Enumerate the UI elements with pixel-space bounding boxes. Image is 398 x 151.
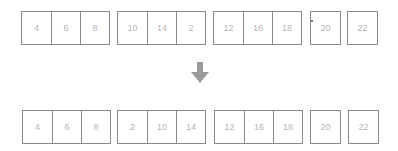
cell: 22 [349,111,378,143]
arrow-down-icon [190,62,210,84]
before-group-5: 22 [347,11,378,45]
cell: 18 [272,12,301,44]
before-group-4: 20 [310,11,341,45]
after-group-2: 2 10 14 [117,110,206,144]
cell: 14 [176,111,205,143]
cell: 18 [273,111,302,143]
cell: 22 [348,12,377,44]
marker-dot [311,20,313,22]
cell: 20 [311,111,340,143]
after-row: 4 6 8 2 10 14 12 16 18 20 22 [0,110,398,144]
cell: 20 [311,12,340,44]
cell: 12 [215,111,244,143]
after-group-5: 22 [348,110,379,144]
before-group-2: 10 14 2 [117,11,206,45]
cell: 14 [147,12,176,44]
cell: 10 [118,12,147,44]
cell: 6 [51,12,80,44]
cell: 6 [52,111,81,143]
cell: 8 [81,111,110,143]
cell: 10 [147,111,176,143]
before-group-3: 12 16 18 [213,11,302,45]
cell: 2 [176,12,205,44]
cell: 12 [214,12,243,44]
before-group-1: 4 6 8 [21,11,110,45]
cell: 4 [23,111,52,143]
cell: 4 [22,12,51,44]
cell: 16 [243,12,272,44]
after-group-1: 4 6 8 [22,110,111,144]
cell: 8 [80,12,109,44]
after-group-4: 20 [310,110,341,144]
before-row: 4 6 8 10 14 2 12 16 18 20 22 [0,11,398,45]
cell: 2 [118,111,147,143]
cell: 16 [244,111,273,143]
after-group-3: 12 16 18 [214,110,303,144]
